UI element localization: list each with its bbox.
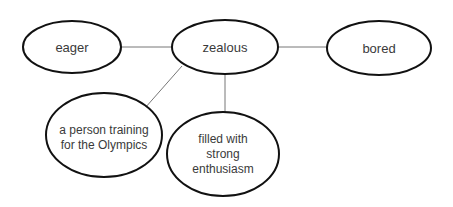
node-definition-line-3: enthusiasm <box>192 162 253 176</box>
node-zealous-label: zealous <box>203 40 248 55</box>
node-bored: bored <box>327 21 431 75</box>
node-example-line-2: for the Olympics <box>61 138 148 152</box>
node-eager-label: eager <box>55 40 89 55</box>
node-bored-label: bored <box>362 41 395 56</box>
word-map-diagram: eager zealous bored a person training fo… <box>0 0 453 207</box>
edge-zealous-example <box>145 66 182 108</box>
node-eager: eager <box>23 21 121 73</box>
node-zealous: zealous <box>172 20 278 74</box>
node-definition-line-2: strong <box>206 147 239 161</box>
node-definition: filled with strong enthusiasm <box>167 112 279 196</box>
node-example: a person training for the Olympics <box>46 93 162 177</box>
node-example-line-1: a person training <box>59 123 148 137</box>
node-definition-line-1: filled with <box>198 132 247 146</box>
